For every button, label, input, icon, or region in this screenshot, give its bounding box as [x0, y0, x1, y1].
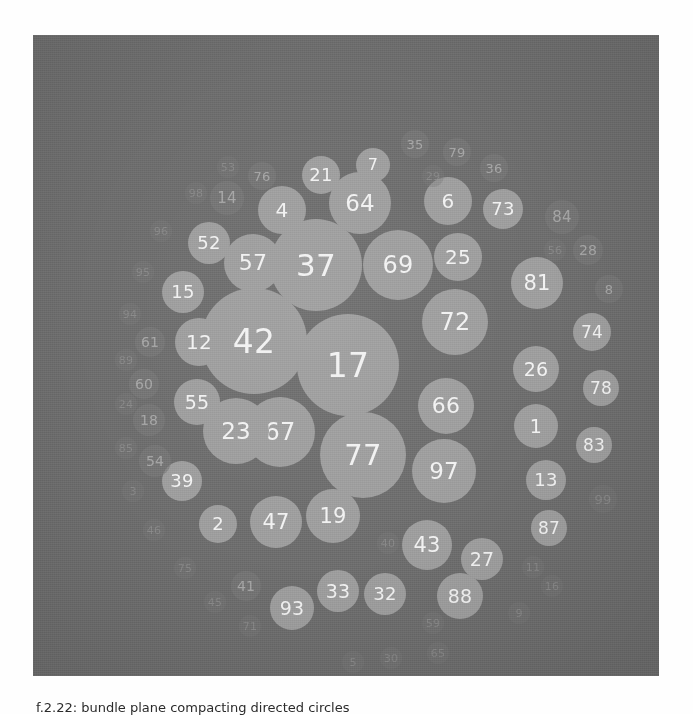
- bubble-21[interactable]: 21: [302, 156, 340, 194]
- bubble-61[interactable]: 61: [135, 327, 165, 357]
- bubble-label: 24: [119, 399, 133, 410]
- bubble-87[interactable]: 87: [531, 510, 567, 546]
- bubble-88[interactable]: 88: [437, 573, 483, 619]
- bubble-2[interactable]: 2: [199, 505, 237, 543]
- bubble-75[interactable]: 75: [174, 557, 196, 579]
- bubble-label: 14: [217, 191, 237, 206]
- bubble-24[interactable]: 24: [115, 393, 137, 415]
- bubble-66[interactable]: 66: [418, 378, 474, 434]
- bubble-99[interactable]: 99: [589, 485, 617, 513]
- bubble-label: 32: [373, 585, 396, 603]
- bubble-26[interactable]: 26: [513, 346, 559, 392]
- bubble-label: 98: [189, 188, 203, 199]
- bubble-29[interactable]: 29: [422, 165, 444, 187]
- bubble-47[interactable]: 47: [250, 496, 302, 548]
- bubble-12[interactable]: 12: [175, 318, 223, 366]
- bubble-4[interactable]: 4: [258, 186, 306, 234]
- bubble-77[interactable]: 77: [320, 412, 406, 498]
- bubble-79[interactable]: 79: [443, 138, 471, 166]
- bubble-label: 47: [262, 512, 289, 533]
- bubble-78[interactable]: 78: [583, 370, 619, 406]
- bubble-98[interactable]: 98: [185, 182, 207, 204]
- bubble-label: 97: [429, 460, 459, 483]
- bubble-label: 21: [309, 166, 332, 184]
- bubble-35[interactable]: 35: [401, 130, 429, 158]
- bubble-19[interactable]: 19: [306, 489, 360, 543]
- bubble-label: 83: [583, 437, 605, 454]
- bubble-label: 27: [470, 550, 495, 569]
- bubble-84[interactable]: 84: [545, 200, 579, 234]
- bubble-label: 13: [534, 471, 557, 489]
- bubble-16[interactable]: 16: [541, 575, 563, 597]
- bubble-96[interactable]: 96: [150, 220, 172, 242]
- bubble-55[interactable]: 55: [174, 379, 220, 425]
- bubble-30[interactable]: 30: [380, 647, 402, 669]
- bubble-label: 6: [442, 191, 455, 211]
- bubble-15[interactable]: 15: [162, 271, 204, 313]
- bubble-label: 36: [486, 162, 503, 175]
- bubble-label: 16: [545, 581, 559, 592]
- bubble-53[interactable]: 53: [217, 156, 239, 178]
- bubble-7[interactable]: 7: [356, 148, 390, 182]
- bubble-9[interactable]: 9: [508, 602, 530, 624]
- bubble-41[interactable]: 41: [231, 571, 261, 601]
- bubble-label: 72: [440, 310, 471, 334]
- bubble-65[interactable]: 65: [427, 642, 449, 664]
- bubble-label: 1: [530, 417, 542, 436]
- bubble-label: 75: [178, 563, 192, 574]
- bubble-label: 17: [327, 349, 369, 382]
- bubble-74[interactable]: 74: [573, 313, 611, 351]
- bubble-label: 7: [368, 157, 378, 173]
- bubble-25[interactable]: 25: [434, 233, 482, 281]
- bubble-3[interactable]: 3: [122, 480, 144, 502]
- bubble-72[interactable]: 72: [422, 289, 488, 355]
- bubble-40[interactable]: 40: [377, 532, 399, 554]
- bubble-46[interactable]: 46: [143, 519, 165, 541]
- bubble-11[interactable]: 11: [522, 556, 544, 578]
- bubble-93[interactable]: 93: [270, 586, 314, 630]
- bubble-13[interactable]: 13: [526, 460, 566, 500]
- bubble-89[interactable]: 89: [115, 349, 137, 371]
- bubble-label: 12: [186, 332, 212, 352]
- bubble-36[interactable]: 36: [480, 154, 508, 182]
- bubble-label: 23: [221, 420, 251, 443]
- bubble-56[interactable]: 56: [544, 239, 566, 261]
- bubble-54[interactable]: 54: [139, 445, 171, 477]
- bubble-28[interactable]: 28: [573, 235, 603, 265]
- bubble-label: 28: [579, 243, 597, 257]
- bubble-76[interactable]: 76: [248, 162, 276, 190]
- bubble-81[interactable]: 81: [511, 257, 563, 309]
- bubble-label: 19: [319, 506, 346, 527]
- bubble-18[interactable]: 18: [133, 404, 165, 436]
- bubble-95[interactable]: 95: [132, 261, 154, 283]
- bubble-17[interactable]: 17: [297, 314, 399, 416]
- bubble-71[interactable]: 71: [239, 615, 261, 637]
- bubble-97[interactable]: 97: [412, 439, 476, 503]
- bubble-57[interactable]: 57: [224, 234, 282, 292]
- bubble-label: 96: [154, 226, 168, 237]
- bubble-label: 54: [146, 454, 164, 468]
- bubble-52[interactable]: 52: [188, 222, 230, 264]
- bubble-label: 87: [538, 520, 560, 537]
- bubble-94[interactable]: 94: [119, 303, 141, 325]
- bubble-60[interactable]: 60: [129, 369, 159, 399]
- bubble-8[interactable]: 8: [595, 275, 623, 303]
- bubble-73[interactable]: 73: [483, 189, 523, 229]
- bubble-label: 30: [384, 653, 398, 664]
- bubble-45[interactable]: 45: [204, 591, 226, 613]
- bubble-27[interactable]: 27: [461, 538, 503, 580]
- bubble-chart-panel[interactable]: 4217377767697223976457661947814325641226…: [33, 35, 659, 676]
- bubble-32[interactable]: 32: [364, 573, 406, 615]
- bubble-label: 56: [548, 245, 562, 256]
- bubble-85[interactable]: 85: [115, 437, 137, 459]
- bubble-14[interactable]: 14: [210, 181, 244, 215]
- bubble-69[interactable]: 69: [363, 230, 433, 300]
- bubble-5[interactable]: 5: [342, 651, 364, 673]
- bubble-1[interactable]: 1: [514, 404, 558, 448]
- bubble-59[interactable]: 59: [422, 612, 444, 634]
- bubble-43[interactable]: 43: [402, 520, 452, 570]
- bubble-83[interactable]: 83: [576, 427, 612, 463]
- bubble-label: 43: [413, 535, 440, 556]
- bubble-label: 64: [345, 192, 375, 215]
- bubble-33[interactable]: 33: [317, 570, 359, 612]
